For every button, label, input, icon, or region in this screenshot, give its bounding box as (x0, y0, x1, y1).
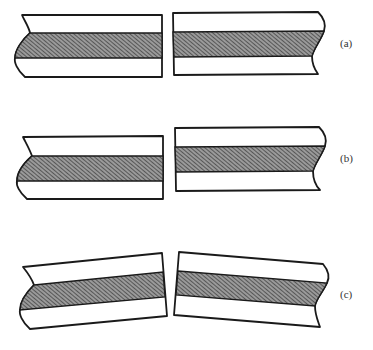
panel-a-right-segment (173, 12, 325, 75)
panel-c-label: (c) (340, 288, 353, 301)
panel-b: (b) (17, 127, 353, 199)
panel-c-left-segment (20, 253, 167, 329)
beam-diagram: (a) (b) (c) (0, 0, 373, 350)
panel-b-right-segment (175, 127, 326, 191)
panel-a-label: (a) (340, 37, 353, 50)
panel-c: (c) (20, 252, 353, 329)
panel-a-left-segment (15, 15, 162, 77)
panel-b-label: (b) (340, 152, 353, 165)
panel-b-left-segment (17, 136, 163, 199)
panel-a: (a) (15, 12, 353, 77)
panel-c-right-segment (174, 252, 328, 327)
